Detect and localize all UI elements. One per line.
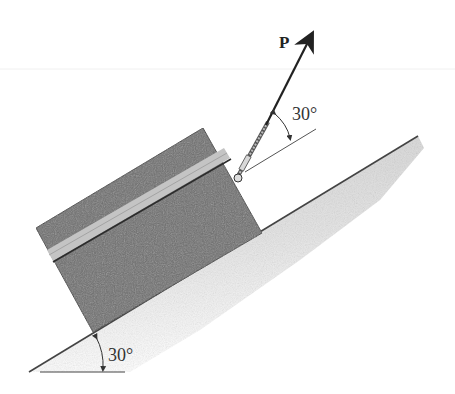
eyebolt xyxy=(234,174,242,182)
cable-angle-arc xyxy=(274,113,290,138)
incline-angle-label: 30° xyxy=(108,345,133,365)
incline-diagram: P 30° 30° xyxy=(0,0,455,394)
cable xyxy=(234,122,268,182)
force-label: P xyxy=(279,33,289,52)
cable-angle-label: 30° xyxy=(292,104,317,124)
incline-parallel-reference xyxy=(245,129,316,172)
